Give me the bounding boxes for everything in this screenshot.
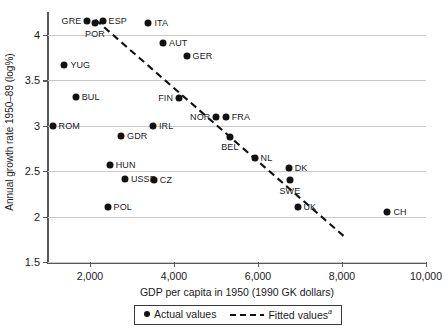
data-point-uk[interactable] xyxy=(294,203,301,210)
data-point-label-gre: GRE xyxy=(62,16,82,26)
data-point-ch[interactable] xyxy=(384,209,391,216)
data-point-label-fra: FRA xyxy=(232,112,250,122)
data-point-irl[interactable] xyxy=(150,122,157,129)
data-point-label-esp: ESP xyxy=(109,16,127,26)
data-point-nl[interactable] xyxy=(251,154,258,161)
data-point-swe[interactable] xyxy=(286,177,293,184)
data-point-label-ita: ITA xyxy=(154,18,168,28)
data-point-cz[interactable] xyxy=(150,177,157,184)
data-point-gre[interactable] xyxy=(84,17,91,24)
data-point-label-nl: NL xyxy=(261,153,273,163)
data-point-label-rom: ROM xyxy=(59,121,80,131)
data-point-bul[interactable] xyxy=(72,93,79,100)
data-point-label-pol: POL xyxy=(114,202,132,212)
x-tick-label: 4,000 xyxy=(161,270,187,282)
plot-area: 1.522.533.54 2,0004,0006,0008,00010,000 … xyxy=(48,12,426,262)
data-point-fra[interactable] xyxy=(222,113,229,120)
data-point-hun[interactable] xyxy=(106,161,113,168)
y-tick-label: 4 xyxy=(34,29,40,41)
chart-legend: Actual values Fitted valuesa xyxy=(134,305,342,325)
x-tick-mark xyxy=(342,262,343,267)
data-point-label-ger: GER xyxy=(193,51,213,61)
x-tick-mark xyxy=(174,262,175,267)
data-point-dk[interactable] xyxy=(285,164,292,171)
data-point-esp[interactable] xyxy=(99,17,106,24)
data-point-fin[interactable] xyxy=(176,95,183,102)
x-tick-label: 2,000 xyxy=(77,270,103,282)
y-axis-title: Annual growth rate 1950–89 (log%) xyxy=(2,2,18,262)
data-point-label-irl: IRL xyxy=(159,121,173,131)
y-tick-label: 3.5 xyxy=(25,74,40,86)
legend-item-actual: Actual values xyxy=(144,308,216,320)
data-point-nor[interactable] xyxy=(213,113,220,120)
data-point-label-swe: SWE xyxy=(279,186,300,196)
x-axis-title: GDP per capita in 1950 (1990 GK dollars) xyxy=(48,286,426,298)
x-tick-mark xyxy=(258,262,259,267)
data-point-gdr[interactable] xyxy=(118,132,125,139)
data-point-ger[interactable] xyxy=(183,52,190,59)
data-point-pol[interactable] xyxy=(104,203,111,210)
data-point-label-hun: HUN xyxy=(116,160,136,170)
data-point-label-bel: BEL xyxy=(221,142,238,152)
data-point-label-por: POR xyxy=(85,29,105,39)
data-point-yug[interactable] xyxy=(61,61,68,68)
filled-circle-icon xyxy=(144,311,150,317)
x-tick-label: 6,000 xyxy=(245,270,271,282)
y-tick-label: 3 xyxy=(34,120,40,132)
data-point-label-uk: UK xyxy=(304,202,317,212)
chart-figure: Annual growth rate 1950–89 (log%) GDP pe… xyxy=(0,0,448,331)
data-point-label-cz: CZ xyxy=(160,175,172,185)
data-point-label-dk: DK xyxy=(295,163,308,173)
data-point-aut[interactable] xyxy=(160,39,167,46)
x-tick-mark xyxy=(90,262,91,267)
gridline xyxy=(48,262,426,263)
data-point-label-ch: CH xyxy=(393,207,406,217)
dashed-line-icon xyxy=(230,308,264,320)
y-tick-mark: 1.5 xyxy=(43,262,48,263)
data-point-label-bul: BUL xyxy=(82,92,100,102)
x-tick-label: 10,000 xyxy=(410,270,442,282)
x-tick-mark xyxy=(426,262,427,267)
y-tick-label: 1.5 xyxy=(25,256,40,268)
data-point-label-nor: NOR xyxy=(190,112,210,122)
data-point-label-fin: FIN xyxy=(158,93,173,103)
legend-item-fitted: Fitted valuesa xyxy=(230,308,331,321)
data-point-rom[interactable] xyxy=(49,122,56,129)
data-point-ita[interactable] xyxy=(145,19,152,26)
data-point-label-aut: AUT xyxy=(169,38,187,48)
y-tick-label: 2.5 xyxy=(25,165,40,177)
data-point-label-gdr: GDR xyxy=(127,131,147,141)
legend-label-fitted: Fitted valuesa xyxy=(268,308,331,321)
fitted-line xyxy=(48,12,426,262)
legend-label-actual: Actual values xyxy=(154,308,216,320)
x-tick-label: 8,000 xyxy=(329,270,355,282)
data-point-por[interactable] xyxy=(92,20,99,27)
data-point-ussr[interactable] xyxy=(121,176,128,183)
data-point-label-yug: YUG xyxy=(70,60,90,70)
y-tick-label: 2 xyxy=(34,211,40,223)
legend-label-fitted-text: Fitted values xyxy=(268,309,328,321)
data-point-bel[interactable] xyxy=(226,133,233,140)
legend-label-fitted-superscript: a xyxy=(328,308,332,315)
